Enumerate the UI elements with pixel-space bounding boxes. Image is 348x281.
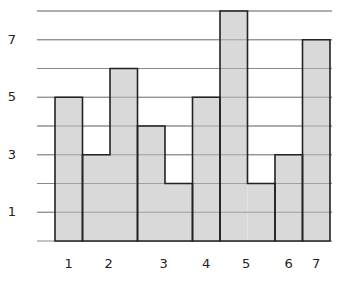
- x-tick-label: 6: [285, 256, 293, 271]
- histogram-chart: 12345671357: [0, 0, 348, 281]
- x-tick-label: 7: [312, 256, 320, 271]
- bar: [303, 40, 331, 241]
- x-tick-label: 3: [159, 256, 167, 271]
- y-tick-label: 7: [8, 32, 16, 47]
- y-tick-label: 5: [8, 89, 16, 104]
- bar: [55, 97, 83, 241]
- x-tick-label: 4: [202, 256, 210, 271]
- bar: [275, 155, 303, 241]
- y-tick-label: 3: [8, 147, 16, 162]
- x-tick-label: 1: [65, 256, 73, 271]
- bar: [83, 155, 111, 241]
- y-tick-label: 1: [8, 204, 16, 219]
- bar: [193, 97, 221, 241]
- x-tick-label: 5: [242, 256, 250, 271]
- x-tick-label: 2: [104, 256, 112, 271]
